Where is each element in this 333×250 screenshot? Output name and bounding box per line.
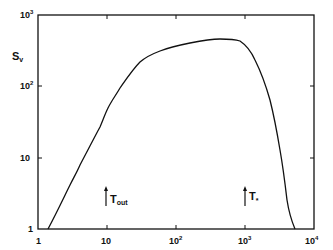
plot-frame (38, 15, 314, 229)
x-ticks (107, 15, 245, 229)
x-tick-label-1000: 103 (238, 235, 252, 246)
t-star-arrow-icon (243, 186, 247, 206)
x-tick-label-1: 1 (36, 236, 41, 246)
y-tick-label-100: 102 (20, 80, 34, 91)
t-star-label: T* (249, 190, 259, 204)
y-ticks (38, 86, 314, 158)
y-tick-label-1000: 103 (20, 9, 34, 20)
y-tick-label-1: 1 (28, 224, 33, 234)
y-tick-label-10: 10 (20, 153, 30, 163)
t-out-label: Tout (110, 193, 128, 206)
x-tick-label-100: 102 (169, 235, 183, 246)
t-out-arrow-icon (104, 186, 108, 206)
chart: 103 102 10 1 1 10 102 103 104 Sv Tout T* (0, 0, 333, 250)
x-tick-label-10000: 104 (305, 235, 319, 246)
x-tick-label-10: 10 (101, 236, 111, 246)
y-axis-label: Sv (12, 50, 23, 63)
